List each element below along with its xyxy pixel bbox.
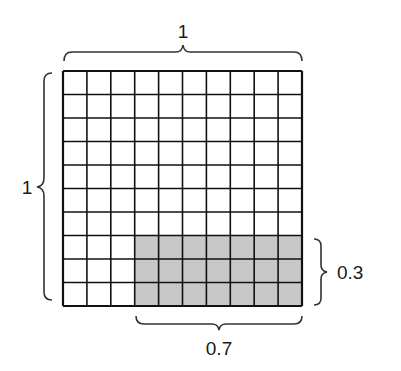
top-label: 1 (178, 21, 189, 42)
left-label: 1 (22, 177, 33, 198)
left-brace-icon (37, 73, 52, 300)
area-model-diagram: 1 1 0.3 0.7 (0, 0, 401, 371)
bottom-brace-icon (136, 316, 302, 330)
shaded-cells (135, 236, 302, 307)
right-brace-icon (314, 239, 327, 305)
right-label: 0.3 (337, 262, 363, 283)
top-brace-icon (64, 45, 302, 61)
shaded-region (135, 236, 302, 307)
bottom-label: 0.7 (206, 338, 232, 359)
